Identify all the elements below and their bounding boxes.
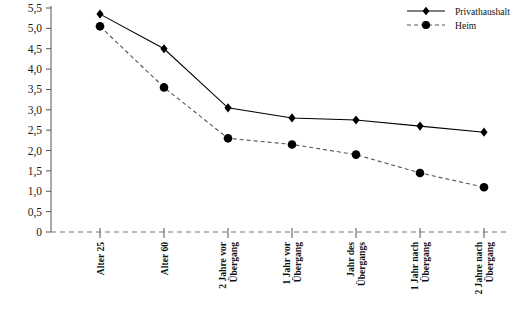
y-tick-label: 0,5 [28, 206, 43, 219]
series-line [100, 26, 484, 187]
x-tick-label: 2 Jahre nachÜbergang [473, 241, 495, 294]
data-point-diamond [352, 115, 359, 124]
y-tick-label: 5,5 [28, 2, 43, 15]
chart-figure: 00,51,01,52,02,53,03,54,04,55,05,5Alter … [0, 0, 510, 314]
data-point-diamond [224, 103, 231, 112]
x-tick-label-line: Alter 25 [95, 242, 106, 275]
y-tick-label: 5,0 [28, 22, 43, 35]
x-tick-label: 2 Jahre vorÜbergang [217, 241, 239, 288]
legend-item[interactable]: Privathaushalt [407, 6, 510, 17]
data-point-circle [96, 22, 105, 31]
y-tick-label: 2,0 [28, 145, 43, 158]
y-tick-label: 3,5 [28, 83, 43, 96]
legend: PrivathaushaltHeim [407, 6, 510, 31]
series-1 [96, 10, 487, 137]
x-tick-label: Alter 25 [95, 242, 106, 275]
legend-label: Privathaushalt [455, 6, 510, 17]
x-tick-label-line: Übergangs [355, 242, 367, 287]
x-tick-labels: Alter 25Alter 602 Jahre vorÜbergang1 Jah… [95, 241, 496, 294]
y-tick-label: 3,0 [28, 104, 43, 117]
x-tick-label: Alter 60 [159, 242, 170, 275]
x-tick-label-line: 1 Jahr vor [281, 241, 292, 284]
data-point-diamond [288, 113, 295, 122]
legend-label: Heim [455, 20, 477, 31]
x-tick-label-line: Übergang [483, 242, 495, 283]
data-point-circle [160, 83, 169, 92]
data-point-diamond [480, 128, 487, 137]
data-point-circle [422, 21, 430, 29]
x-tick-label-line: 2 Jahre nach [473, 241, 484, 294]
x-tick-label: 1 Jahr vorÜbergang [281, 241, 303, 284]
x-tick-label: 1 Jahr nachÜbergang [409, 241, 431, 290]
x-tick-label: Jahr desÜbergangs [345, 242, 367, 287]
x-tick-label-line: Übergang [227, 242, 239, 283]
x-tick-label-line: Alter 60 [159, 242, 170, 275]
y-tick-label: 4,0 [28, 63, 43, 76]
y-axis: 00,51,01,52,02,53,03,54,04,55,05,5 [28, 2, 51, 238]
y-tick-label: 4,5 [28, 43, 43, 56]
data-point-diamond [160, 44, 167, 53]
line-chart-canvas: 00,51,01,52,02,53,03,54,04,55,05,5Alter … [0, 0, 510, 314]
data-point-circle [416, 169, 425, 178]
data-point-circle [288, 140, 297, 149]
x-axis [100, 228, 484, 238]
legend-item[interactable]: Heim [407, 20, 477, 31]
y-tick-label: 2,5 [28, 124, 43, 137]
x-tick-label-line: Jahr des [345, 242, 356, 277]
y-tick-label: 1,5 [28, 165, 43, 178]
data-point-diamond [423, 7, 430, 16]
data-point-circle [480, 183, 489, 192]
x-tick-label-line: Übergang [419, 242, 431, 283]
y-tick-label: 0 [36, 226, 42, 238]
data-point-circle [352, 150, 361, 159]
x-tick-label-line: 1 Jahr nach [409, 241, 420, 290]
data-point-diamond [416, 122, 423, 131]
data-point-diamond [96, 10, 103, 19]
x-tick-label-line: Übergang [291, 242, 303, 283]
y-tick-label: 1,0 [28, 185, 43, 198]
series-2 [96, 22, 489, 191]
x-tick-label-line: 2 Jahre vor [217, 241, 228, 288]
data-point-circle [224, 134, 233, 143]
